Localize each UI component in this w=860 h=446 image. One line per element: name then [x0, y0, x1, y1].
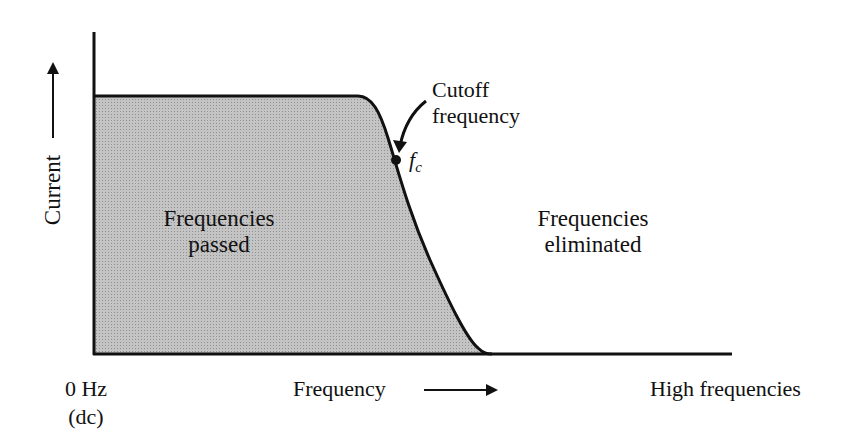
- passed-label-line2: passed: [188, 232, 250, 257]
- eliminated-label-line1: Frequencies: [537, 206, 648, 231]
- passed-label-line1: Frequencies: [163, 206, 274, 231]
- cutoff-arrowhead-icon: [393, 140, 407, 153]
- cutoff-label-line2: frequency: [432, 103, 520, 128]
- cutoff-label-line1: Cutoff: [432, 77, 490, 102]
- cutoff-arrow-icon: [400, 101, 426, 146]
- x-axis-arrow-icon: [424, 384, 498, 396]
- y-axis-arrow-icon: [47, 62, 59, 138]
- x-start-label-line2: (dc): [68, 404, 103, 429]
- x-axis-label: Frequency: [293, 376, 386, 401]
- cutoff-symbol: fc: [409, 147, 422, 175]
- eliminated-label-line2: eliminated: [544, 232, 642, 257]
- cutoff-point: [391, 155, 401, 165]
- passband-area: [94, 96, 492, 354]
- low-pass-filter-diagram: Current fc Cutoff frequency Frequencies …: [0, 0, 860, 446]
- x-end-label: High frequencies: [650, 376, 801, 401]
- x-start-label-line1: 0 Hz: [65, 376, 107, 401]
- y-axis-label: Current: [40, 154, 65, 225]
